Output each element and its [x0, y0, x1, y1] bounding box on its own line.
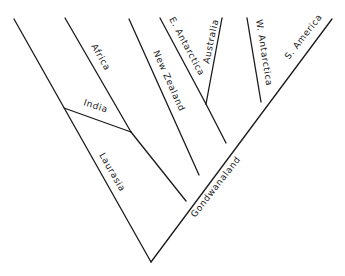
branch-gondwanaland — [151, 19, 332, 262]
label-india: India — [82, 97, 109, 114]
label-gondwanaland: Gondwanaland — [189, 154, 243, 219]
branch-africa-india-stem — [131, 132, 186, 201]
branch-east-clade-stem — [206, 104, 226, 143]
branch-africa — [65, 18, 131, 132]
label-africa: Africa — [89, 42, 112, 72]
branch-laurasia — [14, 19, 151, 262]
label-s-america: S. America — [283, 12, 324, 61]
cladogram: Africa India Laurasia New Zealand E. Ant… — [0, 0, 345, 276]
label-laurasia: Laurasia — [97, 151, 127, 193]
